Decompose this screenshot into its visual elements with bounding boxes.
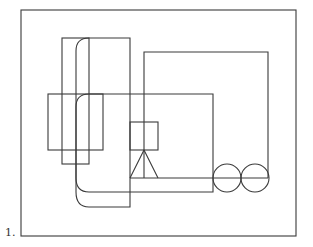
figure-label: 1. [5,227,16,238]
right-rect-outline [144,52,268,178]
inner-j-curve [76,94,89,192]
diagram-figure: 1. [0,0,313,247]
line-drawing [0,0,313,247]
tall-shape-outline [89,38,130,207]
outer-j-curve [76,38,89,207]
large-rect-outline [89,94,213,192]
